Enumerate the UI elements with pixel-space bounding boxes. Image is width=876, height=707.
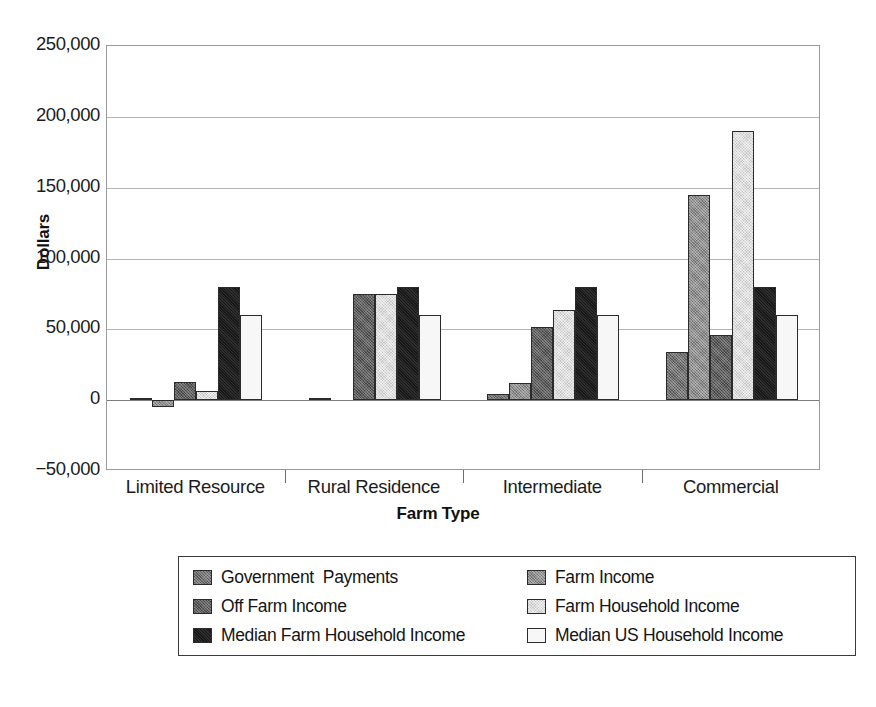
legend-item-medfarm[interactable]: Median Farm Household Income bbox=[193, 621, 465, 650]
legend-swatch-icon-medus bbox=[527, 628, 546, 643]
legend-item-farminc[interactable]: Farm Income bbox=[527, 563, 783, 592]
y-tick-label: −50,000 bbox=[0, 458, 100, 480]
x-axis-tick bbox=[285, 470, 286, 483]
y-tick-label: 100,000 bbox=[0, 246, 100, 268]
bar-medus bbox=[419, 315, 441, 400]
y-tick-label: 0 bbox=[0, 387, 100, 409]
bar-gov bbox=[666, 352, 688, 400]
bar-offfarm bbox=[353, 294, 375, 400]
bar-household bbox=[553, 310, 575, 401]
bar-farminc bbox=[152, 400, 174, 407]
x-category-label: Limited Resource bbox=[106, 476, 285, 498]
bar-medus bbox=[776, 315, 798, 400]
x-category-label: Commercial bbox=[642, 476, 821, 498]
bar-group bbox=[107, 46, 286, 469]
bar-gov bbox=[130, 398, 152, 400]
bar-medfarm bbox=[575, 287, 597, 400]
legend-label: Median US Household Income bbox=[555, 625, 783, 646]
x-category-label: Rural Residence bbox=[285, 476, 464, 498]
legend-item-medus[interactable]: Median US Household Income bbox=[527, 621, 783, 650]
legend-swatch-icon-gov bbox=[193, 570, 212, 585]
legend-item-household[interactable]: Farm Household Income bbox=[527, 592, 783, 621]
bar-medus bbox=[240, 315, 262, 400]
legend-swatch-icon-offfarm bbox=[193, 599, 212, 614]
legend-swatch-icon-household bbox=[527, 599, 546, 614]
bar-farminc bbox=[509, 383, 531, 400]
bar-household bbox=[375, 294, 397, 400]
chart-legend: Government PaymentsOff Farm IncomeMedian… bbox=[178, 556, 856, 656]
y-tick-label: 150,000 bbox=[0, 175, 100, 197]
x-axis-tick bbox=[463, 470, 464, 483]
legend-item-gov[interactable]: Government Payments bbox=[193, 563, 465, 592]
y-axis-tick-labels: −50,000050,000100,000150,000200,000250,0… bbox=[0, 0, 100, 707]
legend-column-left: Government PaymentsOff Farm IncomeMedian… bbox=[193, 563, 465, 650]
plot-area bbox=[106, 45, 820, 470]
bar-household bbox=[196, 391, 218, 400]
bar-group bbox=[286, 46, 465, 469]
y-tick-label: 50,000 bbox=[0, 316, 100, 338]
x-axis-tick bbox=[642, 470, 643, 483]
bar-household bbox=[732, 131, 754, 400]
legend-label: Government Payments bbox=[221, 567, 398, 588]
legend-swatch-icon-medfarm bbox=[193, 628, 212, 643]
y-tick-label: 250,000 bbox=[0, 33, 100, 55]
bar-medfarm bbox=[397, 287, 419, 400]
bar-offfarm bbox=[531, 327, 553, 401]
x-axis-title: Farm Type bbox=[0, 504, 876, 524]
legend-label: Off Farm Income bbox=[221, 596, 347, 617]
bar-medfarm bbox=[218, 287, 240, 400]
x-category-label: Intermediate bbox=[463, 476, 642, 498]
bar-chart: Dollars −50,000050,000100,000150,000200,… bbox=[0, 0, 876, 707]
legend-label: Median Farm Household Income bbox=[221, 625, 465, 646]
legend-swatch-icon-farminc bbox=[527, 570, 546, 585]
bar-offfarm bbox=[174, 382, 196, 400]
bar-farminc bbox=[688, 195, 710, 400]
legend-column-right: Farm IncomeFarm Household IncomeMedian U… bbox=[527, 563, 783, 650]
bar-gov bbox=[487, 394, 509, 400]
bar-group bbox=[643, 46, 822, 469]
legend-label: Farm Household Income bbox=[555, 596, 739, 617]
bar-group bbox=[464, 46, 643, 469]
bar-offfarm bbox=[710, 335, 732, 400]
bar-medus bbox=[597, 315, 619, 400]
y-tick-label: 200,000 bbox=[0, 104, 100, 126]
bar-gov bbox=[309, 398, 331, 400]
bar-medfarm bbox=[754, 287, 776, 400]
legend-label: Farm Income bbox=[555, 567, 654, 588]
legend-item-offfarm[interactable]: Off Farm Income bbox=[193, 592, 465, 621]
